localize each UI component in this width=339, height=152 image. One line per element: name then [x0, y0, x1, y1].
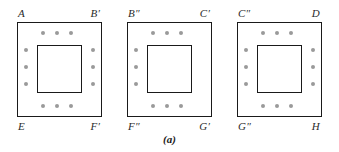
panel-2-dot-bottom-1: [151, 104, 155, 108]
panel-3: [237, 22, 322, 117]
panel-1: [17, 22, 102, 117]
panel-1-dot-right-3: [91, 82, 95, 86]
panel-2: [127, 22, 212, 117]
panel-2-dot-left-1: [134, 48, 138, 52]
panel-3-dot-left-3: [244, 82, 248, 86]
panel-2-dot-bottom-3: [179, 104, 183, 108]
panel-3-label-top-left: C″: [238, 8, 250, 19]
panel-2-dot-top-1: [151, 31, 155, 35]
panel-1-dot-bottom-2: [55, 104, 59, 108]
panel-1-dot-left-2: [24, 65, 28, 69]
panel-1-dot-left-1: [24, 48, 28, 52]
panel-1-dot-bottom-3: [69, 104, 73, 108]
panel-1-label-bottom-left: E: [18, 121, 25, 132]
panel-1-dot-bottom-1: [41, 104, 45, 108]
panel-2-label-bottom-right: G′: [199, 121, 210, 132]
panel-2-label-bottom-left: F″: [128, 121, 140, 132]
panel-3-dot-right-1: [311, 48, 315, 52]
panel-3-dot-top-3: [289, 31, 293, 35]
panel-3-inner-square: [257, 45, 302, 93]
panel-3-dot-left-2: [244, 65, 248, 69]
panel-3-label-top-right: D: [312, 8, 320, 19]
figure-caption: (a): [0, 133, 339, 145]
panel-2-inner-square: [147, 45, 192, 93]
panel-3-dot-top-1: [261, 31, 265, 35]
panel-1-label-bottom-right: F′: [90, 121, 100, 132]
panel-2-dot-left-3: [134, 82, 138, 86]
panel-1-dot-right-1: [91, 48, 95, 52]
panel-1-label-top-right: B′: [90, 8, 100, 19]
panel-3-dot-right-3: [311, 82, 315, 86]
panel-3-dot-bottom-3: [289, 104, 293, 108]
panel-3-dot-left-1: [244, 48, 248, 52]
panel-2-dot-top-2: [165, 31, 169, 35]
panel-2-dot-bottom-2: [165, 104, 169, 108]
panel-3-dot-right-2: [311, 65, 315, 69]
panel-2-dot-top-3: [179, 31, 183, 35]
panel-1-dot-top-3: [69, 31, 73, 35]
panel-1-dot-right-2: [91, 65, 95, 69]
figure-diagram: A B′ E F′ B″ C′ F″ G′ C″ D G″ H (a): [0, 0, 339, 152]
panel-1-dot-top-1: [41, 31, 45, 35]
panel-1-dot-top-2: [55, 31, 59, 35]
panel-1-label-top-left: A: [18, 8, 25, 19]
panel-3-label-bottom-left: G″: [238, 121, 251, 132]
panel-1-dot-left-3: [24, 82, 28, 86]
panel-2-dot-left-2: [134, 65, 138, 69]
panel-3-label-bottom-right: H: [312, 121, 320, 132]
panel-1-inner-square: [37, 45, 82, 93]
panel-2-label-top-left: B″: [128, 8, 140, 19]
panel-3-dot-bottom-2: [275, 104, 279, 108]
panel-3-dot-top-2: [275, 31, 279, 35]
panel-2-label-top-right: C′: [200, 8, 210, 19]
panel-3-dot-bottom-1: [261, 104, 265, 108]
